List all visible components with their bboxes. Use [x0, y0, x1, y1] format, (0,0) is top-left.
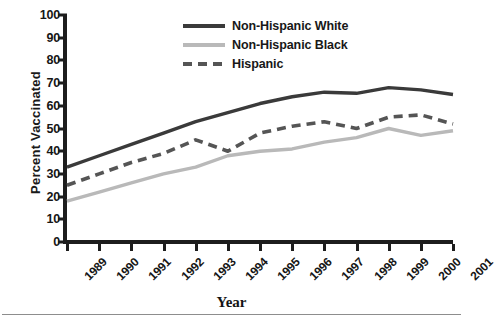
x-tick-mark	[259, 244, 262, 251]
x-tick-mark	[227, 244, 230, 251]
y-tick-mark	[58, 59, 67, 62]
x-tick-label: 1996	[307, 255, 335, 283]
x-tick-label: 2001	[468, 255, 496, 283]
x-tick-mark	[356, 244, 359, 251]
y-tick-mark	[58, 36, 67, 39]
y-tick-mark	[58, 195, 67, 198]
x-tick-mark	[291, 244, 294, 251]
chart-legend: Non-Hispanic WhiteNon-Hispanic BlackHisp…	[183, 16, 348, 73]
y-tick-mark	[58, 172, 67, 175]
y-tick-mark	[58, 82, 67, 85]
y-tick-mark	[58, 14, 67, 17]
x-tick-label: 1997	[339, 255, 367, 283]
x-tick-mark	[98, 244, 101, 251]
x-tick-mark	[195, 244, 198, 251]
legend-item: Non-Hispanic Black	[183, 35, 348, 54]
x-tick-label: 1998	[371, 255, 399, 283]
x-tick-mark	[130, 244, 133, 251]
legend-swatch-icon	[183, 54, 225, 73]
x-tick-label: 1993	[210, 255, 238, 283]
x-tick-mark	[388, 244, 391, 251]
y-tick-mark	[58, 218, 67, 221]
legend-item: Hispanic	[183, 54, 348, 73]
x-tick-mark	[452, 244, 455, 251]
legend-swatch-icon	[183, 35, 225, 54]
legend-item: Non-Hispanic White	[183, 16, 348, 35]
x-tick-mark	[420, 244, 423, 251]
x-tick-mark	[163, 244, 166, 251]
x-tick-label: 1990	[114, 255, 142, 283]
x-tick-mark	[66, 244, 69, 251]
y-tick-mark	[58, 104, 67, 107]
y-tick-mark	[58, 150, 67, 153]
x-tick-mark	[323, 244, 326, 251]
x-tick-label: 1991	[146, 255, 174, 283]
footer-divider	[2, 314, 461, 315]
x-tick-label: 2000	[435, 255, 463, 283]
x-tick-label: 1992	[178, 255, 206, 283]
x-tick-label: 1989	[82, 255, 110, 283]
legend-swatch-icon	[183, 16, 225, 35]
x-tick-label: 1994	[242, 255, 270, 283]
x-axis-title: Year	[0, 294, 463, 311]
x-tick-label: 1995	[275, 255, 303, 283]
legend-label: Non-Hispanic White	[232, 19, 348, 33]
y-tick-mark	[58, 127, 67, 130]
x-tick-label: 1999	[403, 255, 431, 283]
legend-label: Non-Hispanic Black	[232, 38, 348, 52]
legend-label: Hispanic	[232, 57, 283, 71]
